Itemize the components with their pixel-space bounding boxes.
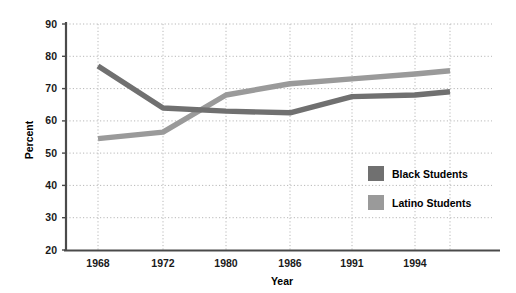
y-tick-label-70: 70 [45, 82, 57, 94]
y-tick-label-80: 80 [45, 50, 57, 62]
legend-label-latino-students: Latino Students [392, 197, 471, 209]
y-axis-title: Percent [23, 120, 35, 159]
legend-label-black-students: Black Students [392, 168, 468, 180]
y-tick-label-60: 60 [45, 114, 57, 126]
y-tick-label-40: 40 [45, 179, 57, 191]
x-tick-label-1994: 1994 [403, 257, 427, 269]
x-tick-label-1991: 1991 [340, 257, 364, 269]
legend-swatch-latino-students [368, 195, 384, 210]
x-tick-label-1972: 1972 [151, 257, 175, 269]
legend-swatch-black-students [368, 166, 384, 181]
chart-background [0, 0, 516, 293]
y-tick-label-50: 50 [45, 147, 57, 159]
x-axis-title: Year [271, 275, 293, 287]
x-tick-label-1980: 1980 [214, 257, 238, 269]
y-tick-label-30: 30 [45, 211, 57, 223]
x-tick-label-1968: 1968 [86, 257, 110, 269]
chart-figure: 90 80 70 60 50 40 30 20 1968 1972 1980 1… [0, 0, 516, 293]
y-tick-label-20: 20 [45, 244, 57, 256]
x-tick-label-1986: 1986 [278, 257, 302, 269]
y-tick-label-90: 90 [45, 18, 57, 30]
line-chart: 90 80 70 60 50 40 30 20 1968 1972 1980 1… [0, 0, 516, 293]
